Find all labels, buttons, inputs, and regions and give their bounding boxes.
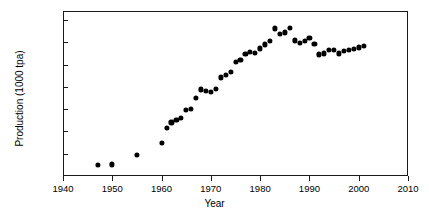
x-tick-mark [162, 176, 163, 181]
x-tick-label: 2010 [397, 183, 418, 194]
y-axis-title: Production (1000 tpa) [14, 29, 25, 169]
x-tick-mark [309, 176, 310, 181]
y-tick-mark [63, 87, 68, 88]
x-tick-label: 1970 [200, 183, 221, 194]
x-tick-mark [408, 176, 409, 181]
x-tick-mark [211, 176, 212, 181]
x-tick-mark [359, 176, 360, 181]
x-tick-label: 1950 [102, 183, 123, 194]
x-tick-mark [63, 176, 64, 181]
y-tick-mark [63, 109, 68, 110]
x-tick-label: 1960 [151, 183, 172, 194]
y-tick-mark [63, 154, 68, 155]
x-tick-mark [112, 176, 113, 181]
y-tick-mark [63, 65, 68, 66]
plot-area-frame [63, 11, 408, 176]
x-tick-label: 1940 [52, 183, 73, 194]
x-tick-label: 1990 [299, 183, 320, 194]
x-tick-label: 2000 [348, 183, 369, 194]
y-tick-mark [63, 20, 68, 21]
scatter-chart-figure: 1000200030004000500060007000194019501960… [0, 0, 429, 217]
x-axis-title: Year [0, 198, 429, 209]
x-tick-label: 1980 [250, 183, 271, 194]
y-tick-mark [63, 42, 68, 43]
y-tick-mark [63, 131, 68, 132]
x-tick-mark [260, 176, 261, 181]
